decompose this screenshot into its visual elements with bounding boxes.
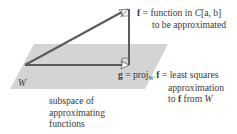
g-annotation: g = projW f = least squares approximatio… <box>118 69 224 105</box>
f-text: = function in <box>140 7 194 18</box>
g-annotation-line1: g = projW f = least squares <box>118 69 224 82</box>
proj-text: = proj <box>123 69 149 80</box>
w-symbol: W <box>205 93 213 104</box>
to-text: to <box>168 93 178 104</box>
caption-line-3: functions <box>49 118 105 130</box>
f-annotation-line2: to be approximated <box>137 19 226 31</box>
subspace-caption: subspace of approximating functions <box>49 95 105 130</box>
f-annotation: f = function in C[a, b] to be approximat… <box>137 7 226 30</box>
f-annotation-line1: f = function in C[a, b] <box>137 7 226 19</box>
g-annotation-line2: approximation <box>118 82 224 94</box>
proj-subscript: W <box>148 74 153 81</box>
from-text: from <box>181 93 204 104</box>
g-annotation-line3: to f from W <box>118 93 224 105</box>
caption-line-2: approximating <box>49 107 105 119</box>
plane-label: W <box>18 77 26 89</box>
interval-text: [a, b] <box>201 7 221 18</box>
caption-line-1: subspace of <box>49 95 105 107</box>
least-squares-text: = least squares <box>160 69 219 80</box>
